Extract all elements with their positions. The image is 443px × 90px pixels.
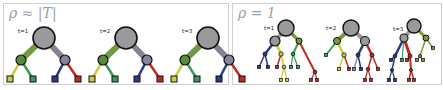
panel-1-label-t3: t=3 [182, 28, 193, 34]
internal-node [60, 55, 70, 65]
panel-1-tree-t2 [89, 27, 163, 82]
root-node [278, 20, 294, 36]
panel-2-label-t3: t=3 [393, 26, 404, 32]
root-node [33, 27, 55, 49]
panel-1-label-t1: t=1 [18, 28, 28, 34]
panel-1-tree-t1 [7, 27, 81, 82]
panel-2-label-t2: t=2 [326, 25, 336, 31]
leaf-node [7, 76, 13, 82]
root-node [407, 19, 421, 33]
tree-figure: t=1 t=2 t=3 t=1 t=2 t=3 [0, 0, 443, 90]
internal-node [16, 55, 26, 65]
root-node [343, 20, 359, 36]
leaf-node [30, 76, 36, 82]
panel-1-tree-t3 [171, 27, 245, 82]
leaf-node [52, 76, 58, 82]
panel-1-label-t2: t=2 [100, 28, 110, 34]
leaf-node [75, 76, 81, 82]
panel-2-label-t1: t=1 [264, 25, 274, 31]
